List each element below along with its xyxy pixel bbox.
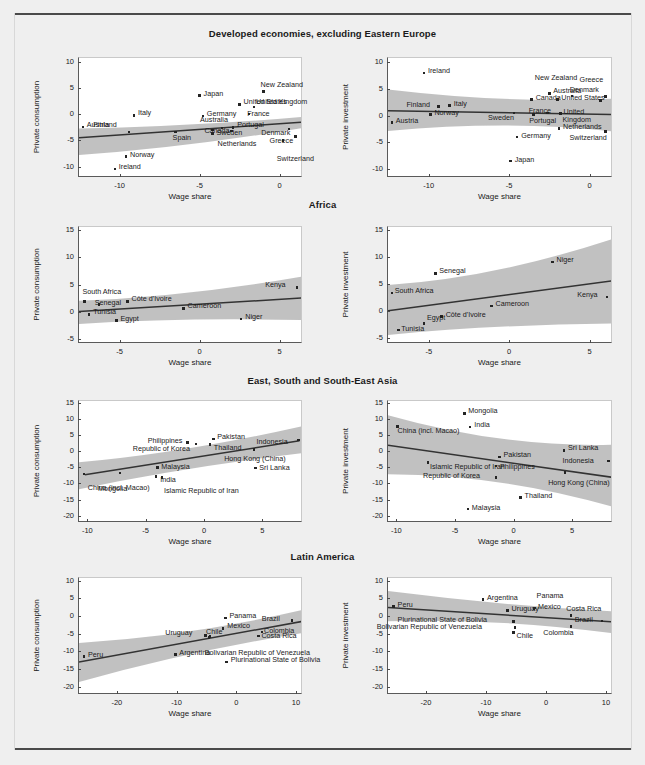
y-tick-mark xyxy=(387,634,390,635)
figure-frame: Developed economies, excluding Eastern E… xyxy=(0,0,645,765)
data-point-marker xyxy=(512,631,515,634)
y-tick-mark xyxy=(387,616,390,617)
data-point-marker xyxy=(506,609,509,612)
data-point-label: Peru xyxy=(398,601,413,608)
y-axis-label-latam-investment: Private investment xyxy=(341,577,350,694)
x-tick-mark xyxy=(546,691,547,694)
data-point-marker xyxy=(570,614,573,617)
data-point-label: Colombia xyxy=(543,629,573,636)
y-tick-label: -20 xyxy=(361,682,383,691)
data-point-label: Chile xyxy=(517,632,533,639)
data-point-label: Costa Rica xyxy=(566,605,601,612)
data-point-marker xyxy=(512,620,515,623)
x-tick-mark xyxy=(426,691,427,694)
data-point-label: Bolivarian Republic of Venezuela xyxy=(377,623,482,630)
y-tick-mark xyxy=(387,669,390,670)
y-tick-mark xyxy=(387,687,390,688)
x-tick-label: 0 xyxy=(531,698,561,707)
data-point-marker xyxy=(514,626,517,629)
x-axis-label-latam-investment: Wage share xyxy=(387,709,612,718)
panel-latam-investment: Private investmentWage share1050-5-10-15… xyxy=(0,0,645,765)
y-tick-mark xyxy=(387,598,390,599)
x-tick-label: -10 xyxy=(471,698,501,707)
y-tick-mark xyxy=(387,581,390,582)
x-tick-label: -20 xyxy=(411,698,441,707)
x-tick-label: 10 xyxy=(591,698,621,707)
data-point-label: Mexico xyxy=(538,603,561,610)
data-point-marker xyxy=(601,620,604,623)
y-tick-label: -10 xyxy=(361,646,383,655)
data-point-marker xyxy=(570,625,573,628)
y-tick-label: 0 xyxy=(361,611,383,620)
y-tick-mark xyxy=(387,651,390,652)
x-tick-mark xyxy=(606,691,607,694)
data-point-marker xyxy=(392,605,395,608)
data-point-label: Panama xyxy=(537,592,564,599)
data-point-marker xyxy=(533,607,536,610)
data-point-marker xyxy=(482,598,485,601)
y-tick-label: 10 xyxy=(361,576,383,585)
y-tick-label: 5 xyxy=(361,593,383,602)
data-point-label: Argentina xyxy=(487,594,518,601)
data-point-label: Brazil xyxy=(575,616,593,623)
x-tick-mark xyxy=(486,691,487,694)
y-tick-label: -15 xyxy=(361,664,383,673)
